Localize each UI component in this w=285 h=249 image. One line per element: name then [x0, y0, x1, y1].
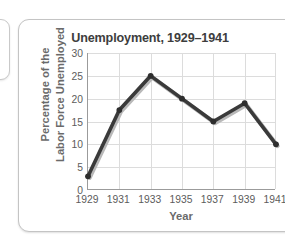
data-point-marker: 1935: 20	[179, 96, 185, 102]
data-point-marker: 1941: 10	[273, 141, 279, 147]
x-tick-label: 1935	[170, 194, 193, 205]
x-axis-tick-labels: 1929193119331935193719391941	[87, 194, 275, 210]
y-tick-label: 5	[59, 162, 83, 173]
x-tick-label: 1931	[107, 194, 130, 205]
data-point-marker: 1937: 15	[210, 119, 216, 125]
x-tick-label: 1939	[232, 194, 255, 205]
chart-title: Unemployment, 1929–1941	[19, 31, 281, 45]
x-axis-title: Year	[87, 210, 275, 222]
x-tick-label: 1937	[201, 194, 224, 205]
data-point-marker: 1933: 25	[148, 73, 154, 79]
x-tick-label: 1933	[138, 194, 161, 205]
partial-card-left-edge	[0, 19, 10, 80]
x-tick-label: 1941	[264, 194, 285, 205]
y-tick-label: 20	[59, 93, 83, 104]
y-axis-tick-labels: 051015202530	[59, 53, 83, 190]
line-series: 1929: 31931: 17.51933: 251935: 201937: 1…	[88, 53, 276, 190]
plot-area: 1929: 31931: 17.51933: 251935: 201937: 1…	[87, 53, 275, 190]
y-tick-label: 15	[59, 116, 83, 127]
x-tick-label: 1929	[76, 194, 99, 205]
y-tick-label: 25	[59, 70, 83, 81]
y-tick-label: 30	[59, 48, 83, 59]
y-tick-label: 10	[59, 139, 83, 150]
data-point-marker: 1931: 17.5	[116, 107, 122, 113]
chart-card: Unemployment, 1929–1941 Percentage of th…	[18, 19, 285, 232]
line-shadow	[90, 77, 278, 177]
data-point-marker: 1929: 3	[85, 173, 91, 179]
data-point-marker: 1939: 19	[242, 100, 248, 106]
